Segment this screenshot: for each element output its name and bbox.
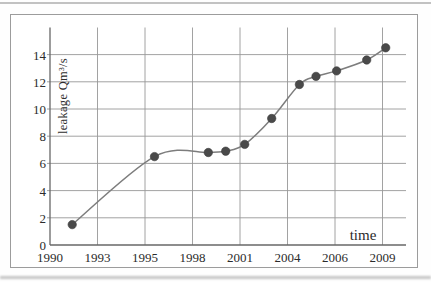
y-tick-label: 6 xyxy=(16,157,46,171)
data-point xyxy=(312,72,320,80)
data-point xyxy=(68,220,76,228)
y-tick-label: 12 xyxy=(16,76,46,90)
y-tick-label: 10 xyxy=(16,103,46,117)
x-tick-label: 2009 xyxy=(361,251,405,265)
y-axis-label: leakage Qm³/s xyxy=(56,58,71,134)
scan-artifact-bottom xyxy=(0,276,431,279)
data-point xyxy=(204,148,212,156)
x-tick-label: 2006 xyxy=(313,251,357,265)
data-point xyxy=(363,56,371,64)
data-point xyxy=(241,140,249,148)
x-tick-label: 1995 xyxy=(123,251,167,265)
x-tick-label: 2004 xyxy=(266,251,310,265)
x-axis-label: time xyxy=(338,227,388,244)
data-point xyxy=(150,152,158,160)
x-tick-label: 1990 xyxy=(28,251,72,265)
x-tick-label: 1998 xyxy=(171,251,215,265)
y-tick-label: 8 xyxy=(16,130,46,144)
data-point xyxy=(268,114,276,122)
x-tick-label: 1993 xyxy=(76,251,120,265)
figure: leakage Qm³/s time 02468101214 199019931… xyxy=(0,0,431,282)
y-tick-label: 2 xyxy=(16,212,46,226)
data-point xyxy=(295,80,303,88)
y-tick-label: 4 xyxy=(16,185,46,199)
data-point xyxy=(382,44,390,52)
y-tick-label: 14 xyxy=(16,49,46,63)
data-point xyxy=(222,147,230,155)
x-tick-label: 2001 xyxy=(218,251,262,265)
data-point xyxy=(332,67,340,75)
